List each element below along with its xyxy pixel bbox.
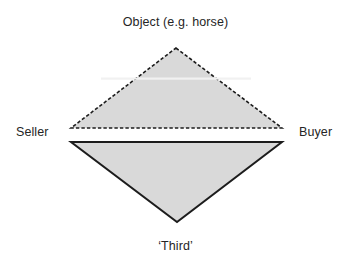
scan-band xyxy=(101,78,251,80)
diagram-canvas: Object (e.g. horse) Seller Buyer ‘Third’ xyxy=(0,0,351,265)
label-seller: Seller xyxy=(16,125,49,139)
label-third: ‘Third’ xyxy=(0,239,351,253)
label-buyer: Buyer xyxy=(299,125,332,139)
upper-triangle xyxy=(71,48,282,128)
lower-triangle xyxy=(71,142,282,222)
label-object: Object (e.g. horse) xyxy=(0,15,351,29)
